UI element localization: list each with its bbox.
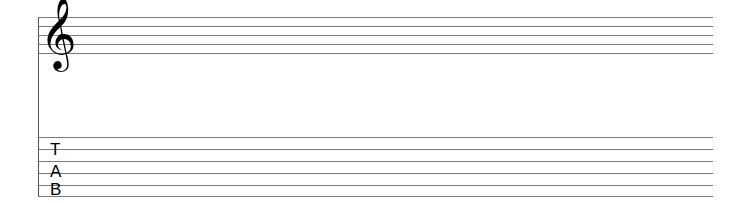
staff-line-2 bbox=[38, 26, 713, 27]
tab-line-6 bbox=[38, 196, 713, 197]
tab-line-1 bbox=[38, 137, 713, 138]
tab-line-4 bbox=[38, 173, 713, 174]
staff-line-4 bbox=[38, 44, 713, 45]
treble-clef-icon: 𝄞 bbox=[40, 2, 77, 64]
tab-line-3 bbox=[38, 161, 713, 162]
staff-line-5 bbox=[38, 53, 713, 54]
tab-letter-b: B bbox=[50, 181, 61, 198]
staff-line-3 bbox=[38, 35, 713, 36]
staff-line-1 bbox=[38, 17, 713, 18]
tab-line-5 bbox=[38, 185, 713, 186]
tab-letter-t: T bbox=[50, 141, 60, 158]
tab-line-2 bbox=[38, 149, 713, 150]
tab-letter-a: A bbox=[50, 163, 61, 180]
